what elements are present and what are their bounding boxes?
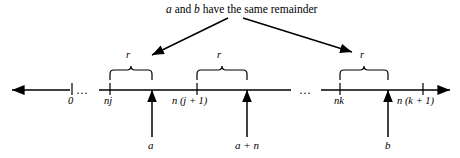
brace-r-3 bbox=[340, 66, 388, 80]
brace-r-2 bbox=[197, 66, 247, 80]
remainder-number-line-diagram: a and b have the same remainder … … 0 nj… bbox=[0, 0, 460, 158]
brace-r-1 bbox=[110, 66, 152, 80]
caption-arrow-right bbox=[243, 18, 352, 52]
diagram-vector-layer bbox=[0, 0, 460, 158]
caption-arrow-left bbox=[152, 18, 228, 55]
